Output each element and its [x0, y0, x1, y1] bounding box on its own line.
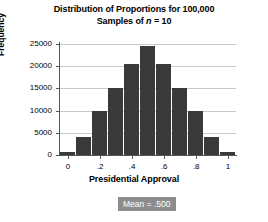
bar: [124, 64, 139, 155]
x-axis-tick: [228, 155, 229, 159]
chart-title-line-1: Distribution of Proportions for 100,000: [0, 3, 268, 15]
bar: [92, 111, 107, 155]
bar: [204, 137, 219, 155]
bar: [220, 152, 235, 155]
y-axis-tick: [56, 133, 60, 134]
y-axis-tick: [56, 66, 60, 67]
x-axis-tick-label: .6: [154, 163, 174, 171]
y-axis-tick-label: 15000: [4, 84, 52, 92]
x-axis-tick-label: .2: [90, 163, 110, 171]
y-axis-tick-label: 5000: [4, 129, 52, 137]
page-title: Distribution of Proportions for 100,000 …: [0, 3, 268, 27]
x-axis-tick-label: 1: [218, 163, 238, 171]
y-axis-tick-label: 0: [4, 151, 52, 159]
y-axis-tick: [56, 155, 60, 156]
x-axis-tick: [164, 155, 165, 159]
bar: [156, 64, 171, 155]
x-axis-tick: [132, 155, 133, 159]
x-axis-tick-label: .4: [122, 163, 142, 171]
x-axis-tick: [100, 155, 101, 159]
x-axis-tick-label: .8: [186, 163, 206, 171]
mean-annotation-box: Mean = .500: [118, 197, 176, 211]
x-axis-tick: [68, 155, 69, 159]
x-axis-tick: [196, 155, 197, 159]
bar: [76, 137, 91, 155]
x-axis-tick-label: 0: [58, 163, 78, 171]
y-axis-tick: [56, 111, 60, 112]
bar: [60, 152, 75, 155]
x-axis-title: Presidential Approval: [0, 174, 268, 184]
y-axis-tick-label: 25000: [4, 40, 52, 48]
y-axis-tick: [56, 88, 60, 89]
x-axis-line: [59, 155, 237, 156]
bar: [188, 111, 203, 155]
y-axis-tick-label: 10000: [4, 107, 52, 115]
chart-title-line-2-suffix: = 10: [152, 16, 172, 26]
y-axis-tick: [56, 44, 60, 45]
chart-title-line-2-prefix: Samples of: [97, 16, 146, 26]
y-axis-title: Frequency: [0, 13, 6, 56]
y-axis-tick-label: 20000: [4, 62, 52, 70]
bar: [108, 88, 123, 155]
chart-title-line-2: Samples of n = 10: [0, 15, 268, 27]
chart-figure: Distribution of Proportions for 100,000 …: [0, 0, 268, 222]
plot-area: 05000100001500020000250000.2.4.6.81: [60, 44, 236, 155]
bar: [140, 46, 155, 155]
bar: [172, 88, 187, 155]
